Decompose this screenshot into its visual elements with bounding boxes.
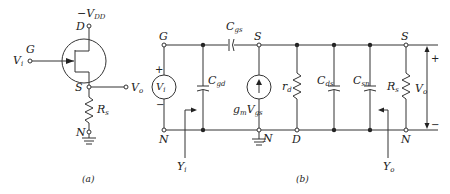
node-n-left: [162, 128, 166, 132]
figure-a-common-drain-circuit: −VDD D G Vi S Vo Rs N: [13, 7, 143, 184]
output-label: Vo: [131, 81, 143, 95]
source-right-label: S: [401, 30, 409, 43]
vo-minus: −: [431, 119, 439, 130]
figure-b-equivalent-circuit: G N Vi + − Cgd Yi Cgs S: [152, 20, 439, 184]
resistor-rd: [293, 73, 301, 99]
cgs-label: Cgs: [226, 20, 243, 34]
yo-arrow-icon: [378, 108, 384, 113]
node-n-mid: [257, 128, 261, 132]
supply-label: −VDD: [77, 7, 106, 21]
resistor-rs-b: [402, 73, 410, 99]
rd-label: rd: [282, 80, 292, 94]
rs-label-b: Rs: [386, 80, 399, 94]
gate-label-b: G: [159, 30, 168, 43]
yo-arrow: [381, 110, 388, 158]
drain-label-b: D: [291, 133, 301, 146]
output-terminal: [124, 85, 128, 89]
gate-terminal: [28, 59, 32, 63]
resistor-label-a: Rs: [96, 103, 109, 117]
yi-label: Yi: [177, 160, 187, 174]
yi-arrow: [185, 110, 194, 158]
ground-node-terminal: [87, 130, 91, 134]
source-terminal-b: [257, 43, 261, 47]
vo-label: Vo: [415, 82, 427, 96]
vsrc-plus: +: [155, 64, 163, 75]
source-terminal-right: [404, 43, 408, 47]
node-n-right-label: N: [400, 133, 411, 146]
gate-arrow-icon: [66, 58, 74, 64]
caption-a: (a): [82, 174, 95, 184]
vo-plus: +: [431, 53, 439, 64]
input-label: Vi: [13, 54, 23, 68]
drain-label-a: D: [75, 20, 85, 33]
vsrc-label: Vi: [156, 81, 165, 94]
cds-label: Cds: [317, 74, 334, 88]
resistor-rs-a: [85, 89, 93, 130]
source-top-label: S: [254, 30, 262, 43]
yi-arrow-icon: [191, 108, 197, 113]
drain-terminal: [87, 24, 91, 28]
circuit-diagram: −VDD D G Vi S Vo Rs N: [0, 0, 450, 194]
gate-terminal-b: [162, 43, 166, 47]
gate-label-a: G: [26, 43, 35, 56]
node-n-right: [404, 128, 408, 132]
yo-label: Yo: [383, 160, 394, 174]
cgd-label: Cgd: [208, 74, 226, 88]
caption-b: (b): [296, 174, 309, 184]
ground-node-label-a: N: [75, 126, 86, 139]
source-terminal-a: [87, 85, 91, 89]
drain-terminal-b: [295, 128, 299, 132]
vsrc-minus: −: [156, 99, 164, 110]
node-n-left-label: N: [158, 133, 169, 146]
source-label-a: S: [75, 81, 83, 94]
csn-label: Csn: [353, 74, 370, 88]
current-arrow-icon: [256, 79, 262, 85]
